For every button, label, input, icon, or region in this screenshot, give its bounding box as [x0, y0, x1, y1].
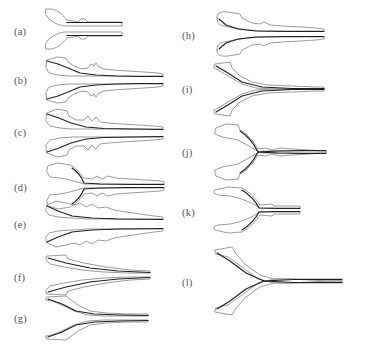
panel-label-g: (g) [14, 314, 27, 325]
panel-j-upper-outline [215, 124, 326, 153]
panel-label-a: (a) [14, 27, 26, 38]
panel-j [212, 122, 330, 182]
panel-g-lower-spine [48, 321, 148, 338]
panel-l-upper-spine [217, 253, 342, 283]
panel-a-lower-outline [46, 32, 122, 49]
panel-i-lower-outline [214, 89, 324, 116]
panel-a-upper-outline [46, 9, 122, 26]
panel-i [212, 60, 330, 118]
panel-h [212, 10, 330, 58]
panel-l-upper-outline [215, 247, 342, 283]
panel-label-b: (b) [14, 76, 27, 87]
panel-d-upper-outline [47, 163, 164, 184]
panel-f-upper-outline [46, 255, 150, 273]
panel-i-shapes [212, 60, 330, 118]
panel-label-e: (e) [14, 220, 26, 231]
panel-l-lower-outline [215, 279, 342, 315]
panel-l-lower-spine [217, 280, 342, 310]
panel-h-upper-outline [217, 12, 324, 31]
panel-h-shapes [212, 10, 330, 58]
panel-label-h: (h) [182, 31, 195, 42]
panel-c-upper-outline [46, 109, 163, 129]
panel-e-upper-outline [46, 201, 163, 219]
panel-g [44, 293, 156, 343]
panel-c [44, 107, 166, 159]
panel-f-shapes [44, 252, 156, 298]
panel-h-lower-outline [217, 37, 324, 56]
figure-canvas: (a)(b)(c)(d)(e)(f)(g)(h)(i)(j)(k)(l) [0, 0, 365, 348]
panel-label-f: (f) [14, 273, 25, 284]
panel-label-i: (i) [182, 85, 193, 96]
panel-i-upper-outline [214, 62, 324, 89]
panel-e [44, 199, 166, 249]
panel-k [212, 185, 312, 235]
panel-j-shapes [212, 122, 330, 182]
panel-a [44, 6, 126, 52]
panel-l [212, 245, 347, 317]
panel-g-upper-spine [48, 299, 148, 316]
panel-a-shapes [44, 6, 126, 52]
panel-label-c: (c) [14, 128, 26, 139]
panel-f [44, 252, 156, 298]
panel-label-j: (j) [182, 148, 193, 159]
panel-l-shapes [212, 245, 347, 317]
panel-b-shapes [44, 55, 166, 105]
panel-c-shapes [44, 107, 166, 159]
panel-c-lower-spine [47, 137, 163, 153]
panel-g-lower-outline [46, 320, 148, 340]
panel-j-lower-outline [215, 151, 326, 180]
panel-b [44, 55, 166, 105]
panel-label-l: (l) [182, 278, 193, 289]
panel-e-lower-outline [46, 229, 163, 247]
panel-e-shapes [44, 199, 166, 249]
panel-c-upper-spine [47, 114, 163, 130]
panel-label-k: (k) [182, 208, 195, 219]
panel-g-upper-outline [46, 296, 148, 316]
panel-g-shapes [44, 293, 156, 343]
panel-label-d: (d) [14, 183, 27, 194]
panel-k-shapes [212, 185, 312, 235]
panel-c-lower-outline [46, 137, 163, 157]
panel-d-upper-spine [72, 168, 164, 185]
